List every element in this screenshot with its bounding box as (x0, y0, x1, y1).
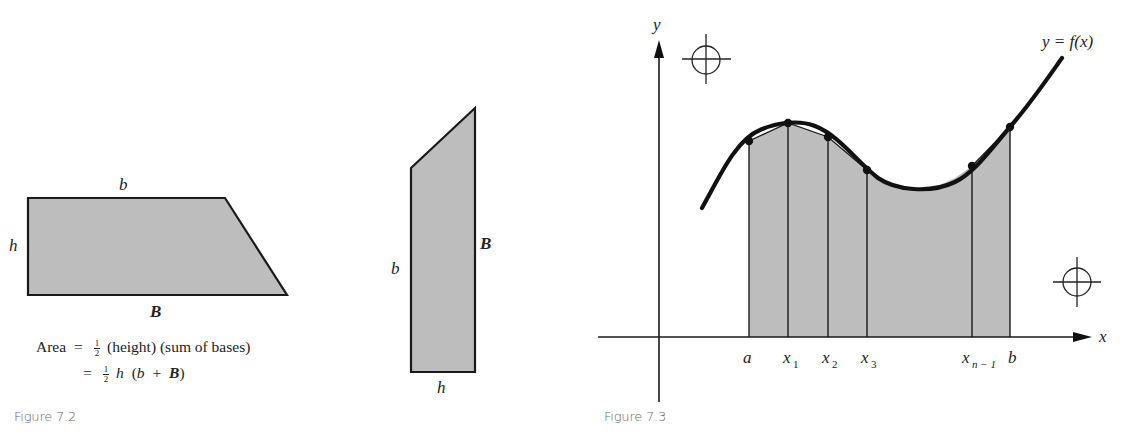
caption-figure-7-2: Figure 7.2 (14, 409, 76, 424)
label-x1: x 1 (782, 348, 799, 370)
svg-text:n − 1: n − 1 (972, 358, 996, 370)
svg-text:x: x (860, 348, 869, 367)
label-xn-minus-1: x n − 1 (961, 348, 996, 370)
label-bottom-base-B: B (149, 302, 161, 321)
svg-text:3: 3 (871, 358, 877, 370)
label-a: a (743, 348, 752, 367)
area-formula-line-1: Area = 12 (height) (sum of bases) (36, 338, 250, 358)
caption-figure-7-3: Figure 7.3 (604, 409, 666, 424)
svg-text:x: x (821, 348, 830, 367)
fraction-one-half: 12 (94, 339, 101, 358)
x-axis-label: x (1098, 327, 1107, 346)
label-top-base-b: b (119, 175, 128, 194)
fraction-one-half: 12 (103, 365, 110, 384)
formula-area-word: Area (36, 338, 66, 355)
label-right-base-B: B (479, 234, 491, 253)
trapezoid-horizontal (28, 198, 287, 295)
label-height-h: h (9, 236, 18, 255)
svg-text:1: 1 (793, 358, 799, 370)
formula-h: h (116, 364, 124, 381)
label-x3: x 3 (860, 348, 877, 370)
label-b: b (1008, 348, 1017, 367)
formula-equals: = (83, 364, 92, 381)
svg-text:x: x (782, 348, 791, 367)
area-formula-line-2: = 12 h (b + B) (79, 364, 185, 384)
label-left-base-b: b (391, 259, 400, 278)
trapezoid-vertical (411, 108, 475, 372)
curve-label: y = f(x) (1040, 32, 1093, 51)
formula-plus: + (152, 364, 161, 381)
label-x2: x 2 (821, 348, 838, 370)
label-width-h: h (437, 378, 446, 397)
svg-text:2: 2 (832, 358, 838, 370)
y-axis-label: y (651, 15, 661, 34)
formula-rhs-text: (height) (sum of bases) (107, 338, 250, 355)
registration-mark-icon (1053, 257, 1101, 307)
svg-text:y = f(x): y = f(x) (1040, 32, 1093, 51)
svg-text:x: x (961, 348, 970, 367)
formula-b: b (137, 364, 145, 381)
y-axis (654, 40, 664, 402)
formula-equals: = (74, 338, 83, 355)
formula-paren-close: ) (179, 364, 184, 381)
formula-B: B (169, 364, 179, 381)
registration-mark-icon (682, 34, 731, 84)
